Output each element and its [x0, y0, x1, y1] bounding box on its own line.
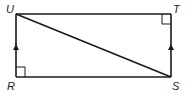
- vertex-label-U: U: [6, 3, 14, 15]
- parallel-arrow-icon-RU: [13, 44, 19, 50]
- vertex-label-S: S: [172, 80, 180, 92]
- diagonal-US: [16, 14, 171, 77]
- right-angle-mark-R: [16, 67, 25, 77]
- vertex-label-R: R: [7, 80, 15, 92]
- rectangle-diagram: U T S R: [0, 0, 187, 95]
- right-angle-mark-T: [162, 14, 171, 24]
- parallel-arrow-icon-ST: [168, 44, 174, 50]
- vertex-label-T: T: [173, 3, 181, 15]
